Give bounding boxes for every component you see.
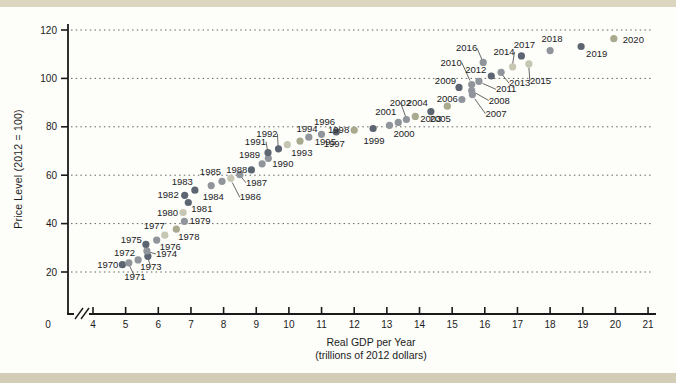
point-label-1989: 1989	[239, 149, 260, 160]
point-label-2004: 2004	[407, 97, 428, 108]
data-point-1980	[180, 209, 187, 216]
y-tick-label-100: 100	[40, 73, 57, 84]
data-point-1998	[351, 127, 358, 134]
data-point-2017	[518, 52, 525, 59]
point-label-2005: 2005	[430, 113, 451, 124]
data-point-2013	[498, 69, 505, 76]
data-point-2011	[475, 78, 482, 85]
data-point-1995	[305, 134, 312, 141]
data-point-2002	[403, 116, 410, 123]
point-label-2009: 2009	[435, 75, 456, 86]
leader-1986	[232, 183, 240, 198]
point-label-2014: 2014	[493, 46, 514, 57]
point-label-1992: 1992	[256, 128, 277, 139]
point-label-2001: 2001	[375, 106, 396, 117]
point-label-1973: 1973	[140, 261, 161, 272]
data-point-1975	[142, 241, 149, 248]
data-point-1991	[264, 149, 271, 156]
point-label-2000: 2000	[394, 128, 415, 139]
point-label-1977: 1977	[144, 220, 165, 231]
data-point-2020	[610, 35, 617, 42]
data-point-2005	[444, 103, 451, 110]
x-tick-label-6: 6	[156, 319, 162, 330]
x-axis-title-line2: (trillions of 2012 dollars)	[218, 349, 524, 362]
data-point-2015	[525, 60, 532, 67]
data-point-2019	[578, 43, 585, 50]
data-point-1986	[227, 175, 234, 182]
x-origin-label: 0	[45, 319, 51, 330]
point-label-1978: 1978	[178, 231, 199, 242]
x-tick-label-13: 13	[381, 319, 393, 330]
data-point-1989	[259, 160, 266, 167]
point-label-2018: 2018	[542, 33, 563, 44]
x-tick-label-17: 17	[512, 319, 524, 330]
point-label-1984: 1984	[203, 191, 224, 202]
x-tick-label-15: 15	[447, 319, 459, 330]
chart-canvas: 2040608010012045678910111213141516171819…	[0, 0, 676, 383]
data-point-1974	[143, 247, 150, 254]
x-tick-label-11: 11	[316, 319, 327, 330]
point-label-2012: 2012	[465, 64, 486, 75]
data-point-2014	[509, 63, 516, 70]
data-point-1985	[218, 178, 225, 185]
leader-2011	[483, 83, 496, 89]
data-point-1984	[208, 182, 215, 189]
leader-2008	[475, 93, 488, 101]
point-label-1982: 1982	[158, 189, 179, 200]
leader-1992	[277, 134, 278, 147]
y-tick-label-80: 80	[46, 121, 58, 132]
point-label-2010: 2010	[441, 57, 462, 68]
point-label-1987: 1987	[246, 177, 267, 188]
y-tick-label-20: 20	[46, 267, 58, 278]
point-label-1972: 1972	[114, 247, 135, 258]
data-point-1994	[296, 138, 303, 145]
x-tick-label-21: 21	[642, 319, 654, 330]
point-label-2006: 2006	[437, 93, 458, 104]
chart-page: 2040608010012045678910111213141516171819…	[0, 0, 676, 383]
data-point-1999	[370, 125, 377, 132]
x-tick-label-14: 14	[414, 319, 426, 330]
point-label-1985: 1985	[200, 166, 221, 177]
data-point-2000	[386, 122, 393, 129]
data-point-2010	[468, 81, 475, 88]
point-label-2019: 2019	[586, 48, 607, 59]
leader-2013	[502, 75, 509, 84]
leader-2007	[475, 99, 486, 114]
point-label-2015: 2015	[530, 75, 551, 86]
data-point-2003	[412, 113, 419, 120]
point-label-2020: 2020	[623, 34, 644, 45]
x-tick-label-9: 9	[253, 319, 259, 330]
x-tick-label-10: 10	[283, 319, 295, 330]
x-axis-title-line1: Real GDP per Year	[218, 336, 524, 349]
data-point-1970	[119, 261, 126, 268]
x-tick-label-4: 4	[90, 319, 96, 330]
y-tick-label-120: 120	[40, 25, 57, 36]
x-tick-label-8: 8	[221, 319, 227, 330]
point-label-1980: 1980	[157, 207, 178, 218]
x-tick-label-12: 12	[349, 319, 361, 330]
point-label-1975: 1975	[121, 234, 142, 245]
x-tick-label-20: 20	[610, 319, 622, 330]
x-tick-label-7: 7	[188, 319, 194, 330]
point-label-1997: 1997	[324, 138, 345, 149]
data-point-1993	[284, 141, 291, 148]
point-label-1970: 1970	[97, 259, 118, 270]
x-tick-label-19: 19	[577, 319, 589, 330]
point-label-1981: 1981	[191, 203, 212, 214]
data-point-2012	[488, 72, 495, 79]
data-point-1977	[161, 232, 168, 239]
data-point-2009	[455, 84, 462, 91]
point-label-1986: 1986	[240, 191, 261, 202]
data-point-2006	[458, 96, 465, 103]
point-label-1971: 1971	[124, 271, 145, 282]
point-label-2013: 2013	[509, 77, 530, 88]
y-tick-label-60: 60	[46, 170, 58, 181]
x-tick-label-16: 16	[479, 319, 491, 330]
y-axis-title: Price Level (2012 = 100)	[12, 89, 24, 249]
data-point-1983	[191, 187, 198, 194]
x-tick-label-18: 18	[545, 319, 557, 330]
point-label-1999: 1999	[364, 135, 385, 146]
point-label-2017: 2017	[514, 39, 535, 50]
x-axis-title: Real GDP per Year (trillions of 2012 dol…	[218, 336, 524, 361]
point-label-1988: 1988	[226, 164, 247, 175]
